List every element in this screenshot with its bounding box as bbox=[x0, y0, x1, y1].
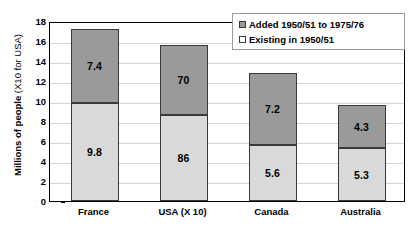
bar-segment-added: 4.3 bbox=[338, 105, 386, 148]
bar-segment-existing: 86 bbox=[160, 115, 208, 201]
bar-group: 5.34.3 bbox=[338, 105, 386, 201]
x-tick-label: France bbox=[49, 206, 138, 217]
bar-value-label: 5.6 bbox=[265, 167, 280, 179]
legend-label-added: Added 1950/51 to 1975/76 bbox=[249, 19, 364, 30]
bar-chart: Millions of people (X10 for USA) 0246810… bbox=[0, 0, 408, 240]
x-tick-label: USA (X 10) bbox=[138, 206, 227, 217]
y-tick-label: 10 bbox=[18, 97, 46, 107]
x-tick-label: Canada bbox=[227, 206, 316, 217]
chart-legend: Added 1950/51 to 1975/76 Existing in 195… bbox=[232, 13, 405, 50]
y-tick-label: 6 bbox=[18, 137, 46, 147]
legend-swatch-existing-icon bbox=[239, 36, 246, 43]
y-tick-label: 4 bbox=[18, 157, 46, 167]
y-tick-label: 18 bbox=[18, 17, 46, 27]
legend-swatch-added-icon bbox=[239, 21, 246, 28]
bar-segment-added: 7.4 bbox=[71, 29, 119, 103]
bar-value-label: 7.2 bbox=[265, 103, 280, 115]
bar-group: 9.87.4 bbox=[71, 29, 119, 201]
bar-value-label: 7.4 bbox=[87, 60, 102, 72]
x-axis-labels: FranceUSA (X 10)CanadaAustralia bbox=[49, 206, 405, 226]
legend-item-added: Added 1950/51 to 1975/76 bbox=[239, 17, 404, 32]
bar-segment-added: 7.2 bbox=[249, 73, 297, 145]
bar-value-label: 5.3 bbox=[354, 169, 369, 181]
legend-item-existing: Existing in 1950/51 bbox=[239, 32, 404, 47]
bar-group: 8670 bbox=[160, 45, 208, 201]
y-tick-label: 16 bbox=[18, 37, 46, 47]
bar-value-label: 70 bbox=[177, 74, 189, 86]
y-axis-ticks: 024681012141618 bbox=[16, 0, 46, 240]
x-tick-label: Australia bbox=[316, 206, 405, 217]
y-tick-label: 0 bbox=[18, 197, 46, 207]
bar-group: 5.67.2 bbox=[249, 73, 297, 201]
bar-segment-added: 70 bbox=[160, 45, 208, 115]
bar-value-label: 86 bbox=[177, 152, 189, 164]
y-tick-label: 8 bbox=[18, 117, 46, 127]
bar-segment-existing: 5.3 bbox=[338, 148, 386, 201]
y-tick-label: 14 bbox=[18, 57, 46, 67]
y-tick-label: 2 bbox=[18, 177, 46, 187]
bar-value-label: 9.8 bbox=[87, 146, 102, 158]
bar-value-label: 4.3 bbox=[354, 121, 369, 133]
bar-segment-existing: 5.6 bbox=[249, 145, 297, 201]
y-tick-mark bbox=[61, 202, 65, 203]
legend-label-existing: Existing in 1950/51 bbox=[249, 34, 334, 45]
bar-segment-existing: 9.8 bbox=[71, 103, 119, 201]
y-tick-label: 12 bbox=[18, 77, 46, 87]
